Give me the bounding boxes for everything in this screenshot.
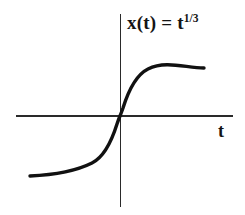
cube-root-curve (30, 65, 204, 176)
function-label-base: x(t) = t (127, 12, 184, 33)
x-axis-label: t (218, 122, 224, 140)
function-label-exponent: 1/3 (184, 12, 199, 24)
function-label: x(t) = t1/3 (127, 12, 198, 34)
plot-canvas (0, 0, 245, 215)
cube-root-function-figure: x(t) = t1/3 t (0, 0, 245, 215)
